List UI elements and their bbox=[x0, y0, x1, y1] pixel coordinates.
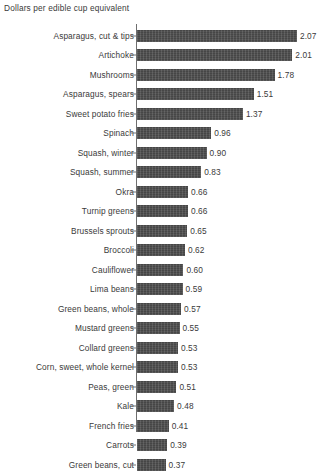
axis-tick-mark bbox=[131, 308, 136, 309]
category-label: Corn, sweet, whole kernel bbox=[36, 362, 134, 372]
category-label: Turnip greens bbox=[82, 206, 134, 216]
bar-row: Brussels sprouts0.65 bbox=[0, 221, 326, 241]
bar-value-label: 0.53 bbox=[181, 343, 198, 353]
bar-row: Squash, winter0.90 bbox=[0, 143, 326, 163]
category-label: Mustard greens bbox=[75, 323, 134, 333]
bar-row: Carrots0.39 bbox=[0, 436, 326, 456]
bar bbox=[137, 127, 211, 139]
bar-row: Collard greens0.53 bbox=[0, 338, 326, 358]
bar-value-label: 0.53 bbox=[181, 362, 198, 372]
bar-value-label: 0.65 bbox=[190, 226, 207, 236]
axis-tick-mark bbox=[131, 269, 136, 270]
category-label: Asparagus, cut & tips bbox=[54, 31, 135, 41]
bar bbox=[137, 225, 187, 237]
category-label: Broccoli bbox=[104, 245, 134, 255]
bar-value-label: 0.66 bbox=[191, 206, 208, 216]
bar-row: Okra0.66 bbox=[0, 182, 326, 202]
category-label: Squash, summer bbox=[70, 167, 134, 177]
axis-tick-mark bbox=[131, 328, 136, 329]
bar-value-label: 1.37 bbox=[246, 109, 263, 119]
axis-tick-mark bbox=[131, 230, 136, 231]
category-label: French fries bbox=[89, 421, 134, 431]
bar bbox=[137, 459, 166, 471]
bar-value-label: 0.48 bbox=[177, 401, 194, 411]
bar bbox=[137, 439, 167, 451]
bar bbox=[137, 49, 292, 61]
category-label: Carrots bbox=[106, 440, 134, 450]
axis-tick-mark bbox=[131, 55, 136, 56]
bar bbox=[137, 166, 201, 178]
axis-tick-mark bbox=[131, 191, 136, 192]
bar bbox=[137, 186, 188, 198]
bar-value-label: 2.07 bbox=[300, 31, 317, 41]
bar bbox=[137, 30, 297, 42]
bar bbox=[137, 205, 188, 217]
bar-row: Mustard greens0.55 bbox=[0, 319, 326, 339]
axis-tick-mark bbox=[131, 445, 136, 446]
bar-row: Kale0.48 bbox=[0, 397, 326, 417]
bar-value-label: 0.96 bbox=[214, 128, 231, 138]
axis-tick-mark bbox=[131, 35, 136, 36]
axis-tick-mark bbox=[131, 211, 136, 212]
axis-tick-mark bbox=[131, 464, 136, 465]
bar bbox=[137, 283, 183, 295]
bar-value-label: 0.66 bbox=[191, 187, 208, 197]
category-label: Spinach bbox=[103, 128, 134, 138]
category-label: Collard greens bbox=[79, 343, 134, 353]
category-label: Squash, winter bbox=[78, 148, 134, 158]
bar-row: Squash, summer0.83 bbox=[0, 163, 326, 183]
bar-row: Artichoke2.01 bbox=[0, 46, 326, 66]
category-label: Artichoke bbox=[99, 50, 135, 60]
axis-tick-mark bbox=[131, 113, 136, 114]
bar-value-label: 0.59 bbox=[186, 284, 203, 294]
bar bbox=[137, 322, 180, 334]
category-label: Asparagus, spears bbox=[63, 89, 134, 99]
bar bbox=[137, 147, 207, 159]
bar-value-label: 2.01 bbox=[295, 50, 312, 60]
bar-value-label: 0.37 bbox=[169, 460, 186, 470]
category-label: Lima beans bbox=[90, 284, 134, 294]
bar-value-label: 0.55 bbox=[183, 323, 200, 333]
bar-row: Turnip greens0.66 bbox=[0, 202, 326, 222]
bar bbox=[137, 420, 169, 432]
bar-row: Sweet potato fries1.37 bbox=[0, 104, 326, 124]
bar bbox=[137, 361, 178, 373]
bar-value-label: 0.60 bbox=[186, 265, 203, 275]
axis-tick-mark bbox=[131, 94, 136, 95]
axis-tick-mark bbox=[131, 289, 136, 290]
bar-row: French fries0.41 bbox=[0, 416, 326, 436]
axis-tick-mark bbox=[131, 406, 136, 407]
axis-tick-mark bbox=[131, 133, 136, 134]
axis-tick-mark bbox=[131, 172, 136, 173]
bar-row: Green beans, whole0.57 bbox=[0, 299, 326, 319]
bar-row: Cauliflower0.60 bbox=[0, 260, 326, 280]
bar bbox=[137, 400, 174, 412]
axis-tick-mark bbox=[131, 425, 136, 426]
bar-value-label: 0.62 bbox=[188, 245, 205, 255]
bar-value-label: 0.51 bbox=[179, 382, 196, 392]
bar bbox=[137, 264, 183, 276]
category-label: Brussels sprouts bbox=[71, 226, 134, 236]
bar-row: Corn, sweet, whole kernel0.53 bbox=[0, 358, 326, 378]
bar bbox=[137, 108, 243, 120]
category-label: Sweet potato fries bbox=[66, 109, 134, 119]
category-label: Green beans, whole bbox=[58, 304, 134, 314]
category-label: Peas, green bbox=[88, 382, 134, 392]
bar-row: Peas, green0.51 bbox=[0, 377, 326, 397]
bar-value-label: 0.41 bbox=[172, 421, 189, 431]
bar-value-label: 1.51 bbox=[257, 89, 274, 99]
bar bbox=[137, 69, 275, 81]
plot-area: Asparagus, cut & tips2.07Artichoke2.01Mu… bbox=[0, 24, 326, 436]
bar-row: Asparagus, spears1.51 bbox=[0, 85, 326, 105]
bar bbox=[137, 381, 176, 393]
category-label: Green beans, cut bbox=[69, 460, 134, 470]
bar-row: Mushrooms1.78 bbox=[0, 65, 326, 85]
bar-value-label: 1.78 bbox=[278, 70, 295, 80]
bar-row: Broccoli0.62 bbox=[0, 241, 326, 261]
axis-tick-mark bbox=[131, 152, 136, 153]
bar-value-label: 0.57 bbox=[184, 304, 201, 314]
axis-tick-mark bbox=[131, 367, 136, 368]
category-label: Mushrooms bbox=[90, 70, 134, 80]
chart-title: Dollars per edible cup equivalent bbox=[4, 3, 129, 13]
